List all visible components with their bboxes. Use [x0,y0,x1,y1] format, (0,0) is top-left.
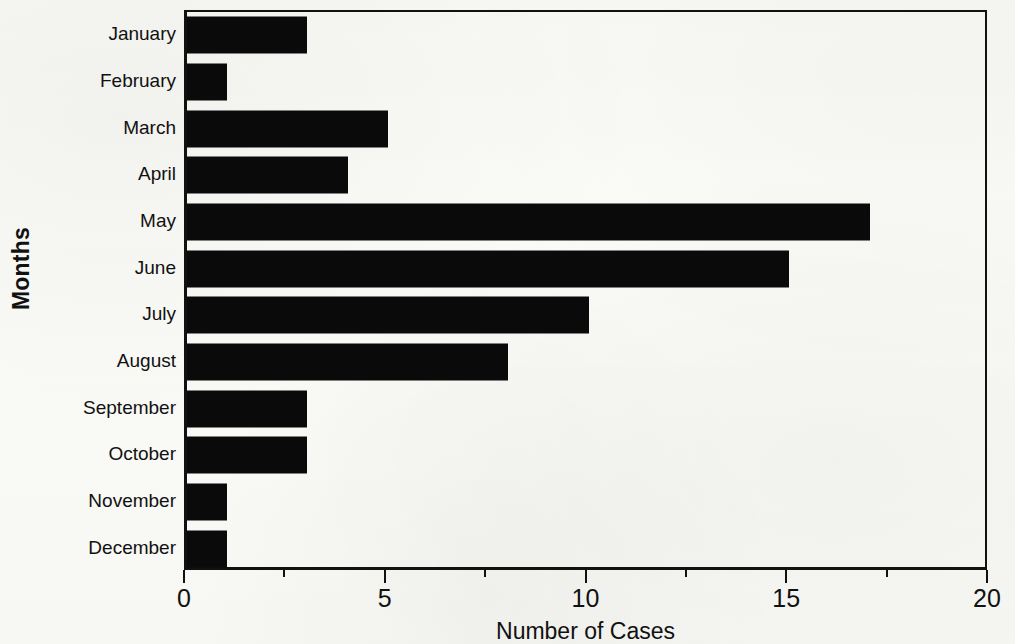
bar-chart-figure: Months JanuaryFebruaryMarchAprilMayJuneJ… [0,0,1015,644]
category-label-october: October [40,444,176,463]
category-label-column: JanuaryFebruaryMarchAprilMayJuneJulyAugu… [40,10,176,570]
x-tick-minor-7-5 [484,570,486,577]
bars-layer [187,12,985,567]
x-axis-tick-labels: 05101520 [184,584,987,616]
bar-july [187,297,589,334]
category-label-august: August [40,351,176,370]
x-tick-major-10 [585,570,587,583]
x-tick-major-5 [384,570,386,583]
category-label-july: July [40,304,176,323]
x-tick-label-20: 20 [973,584,1001,613]
bar-october [187,437,307,474]
x-tick-minor-2-5 [283,570,285,577]
x-tick-minor-12-5 [685,570,687,577]
x-axis-title: Number of Cases [184,618,987,644]
bar-november [187,484,227,521]
category-label-december: December [40,537,176,556]
x-tick-label-5: 5 [378,584,392,613]
x-tick-label-0: 0 [177,584,191,613]
category-label-june: June [40,257,176,276]
bar-august [187,344,508,381]
x-tick-label-10: 10 [572,584,600,613]
bar-december [187,530,227,567]
category-label-november: November [40,491,176,510]
y-axis-title: Months [8,209,35,329]
bar-march [187,110,388,147]
bar-february [187,64,227,101]
x-tick-minor-17-5 [886,570,888,577]
bar-april [187,157,348,194]
bar-june [187,250,789,287]
bar-september [187,390,307,427]
bar-january [187,17,307,54]
category-label-september: September [40,397,176,416]
x-tick-major-15 [785,570,787,583]
category-label-may: May [40,211,176,230]
x-tick-label-15: 15 [772,584,800,613]
x-tick-major-20 [986,570,988,583]
plot-area [184,10,987,570]
x-tick-major-0 [183,570,185,583]
x-axis-tick-marks [184,570,987,584]
category-label-january: January [40,24,176,43]
bar-may [187,204,870,241]
category-label-march: March [40,117,176,136]
category-label-april: April [40,164,176,183]
category-label-february: February [40,71,176,90]
